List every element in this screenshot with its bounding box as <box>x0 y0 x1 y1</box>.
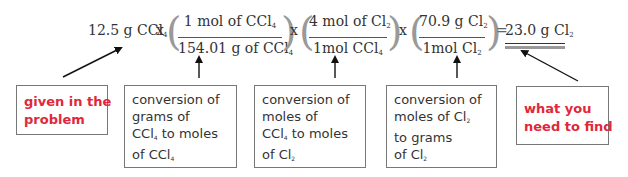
box-line: of CCl4 <box>132 146 236 167</box>
arrow-answer <box>522 51 578 81</box>
box-line: to grams <box>394 129 496 146</box>
box-line: conversion of <box>262 91 365 108</box>
arrow-given <box>63 48 121 77</box>
box-line: of Cl2 <box>394 146 496 167</box>
box-given-in-problem: given in the problem <box>16 85 108 135</box>
box-line: CCl4 to moles <box>132 125 236 146</box>
box-line: what you <box>524 100 608 118</box>
box-grams-to-moles: conversion of grams of CCl4 to moles of … <box>124 85 237 168</box>
box-line: conversion of <box>132 91 236 108</box>
box-line: CCl4 to moles <box>262 125 365 146</box>
box-what-you-need-to-find: what you need to find <box>516 86 609 145</box>
box-line: grams of <box>132 108 236 125</box>
box-moles-to-grams: conversion of moles of Cl2 to grams of C… <box>386 85 497 168</box>
box-line: of Cl2 <box>262 146 365 167</box>
box-line: need to find <box>524 118 608 136</box>
box-moles-to-moles: conversion of moles of CCl4 to moles of … <box>254 85 366 168</box>
box-line: conversion of <box>394 91 496 108</box>
box-line: given in the <box>24 93 107 111</box>
box-line: moles of <box>262 108 365 125</box>
box-line: problem <box>24 111 107 129</box>
box-line: moles of Cl2 <box>394 108 496 129</box>
